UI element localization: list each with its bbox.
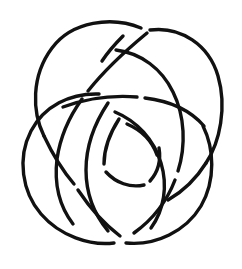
knot-figure-canvas xyxy=(0,0,242,269)
knot-diagram xyxy=(0,0,242,269)
